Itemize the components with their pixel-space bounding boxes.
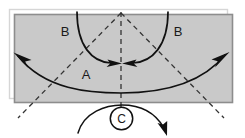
main-panel-rect (15, 15, 233, 103)
figure-canvas: C B B A (0, 0, 245, 138)
rotation-arrow-c-arrowhead (158, 121, 168, 136)
arc-a-label: A (82, 67, 91, 82)
rotation-c-label: C (117, 112, 126, 126)
arc-b-right-label: B (174, 24, 183, 39)
arc-b-left-label: B (61, 24, 70, 39)
diagram-svg: C B B A (0, 0, 245, 138)
